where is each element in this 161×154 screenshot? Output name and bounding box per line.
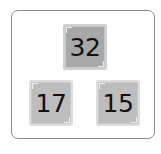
tile-top-value: 32 <box>70 33 101 62</box>
tile-bottom-right-value: 15 <box>103 89 134 118</box>
tile-top[interactable]: 32 <box>63 24 107 70</box>
tile-bottom-left-value: 17 <box>36 89 67 118</box>
tile-bottom-left[interactable]: 17 <box>29 80 73 126</box>
tile-bottom-right[interactable]: 15 <box>96 80 140 126</box>
